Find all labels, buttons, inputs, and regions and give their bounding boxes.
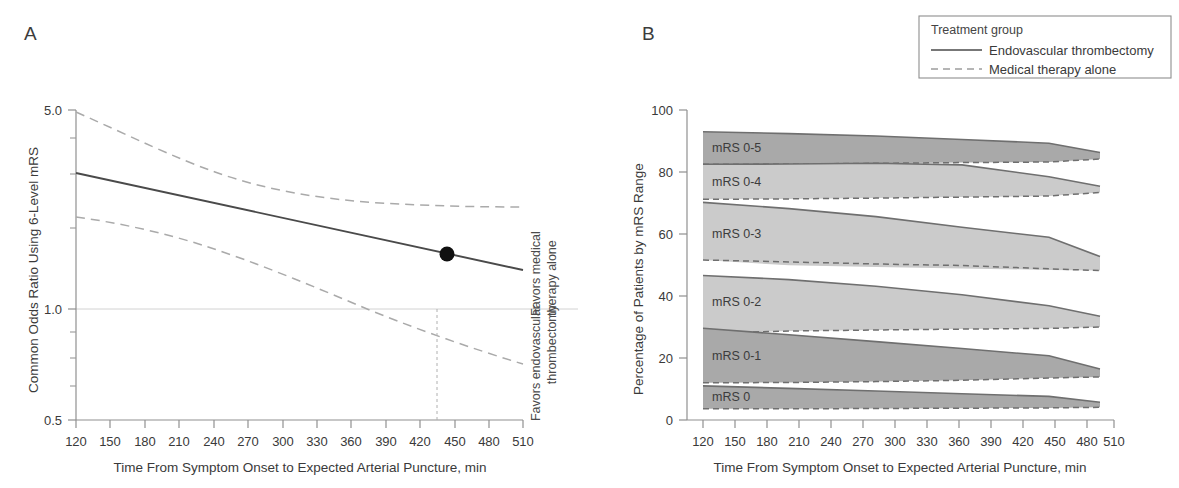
panel-a-xtick-label-9: 390 [375,434,397,449]
panel-a-xtick-label-0: 120 [65,434,87,449]
panel-b-ytick-label-4: 20 [659,351,673,366]
panel-b-xtick-label-7: 330 [916,434,938,449]
panel-a-xtick-label-13: 510 [512,434,534,449]
panel-a-xtick-label-11: 450 [444,434,466,449]
panel-b-x-ticks [703,420,1114,428]
panel-b-letter: B [642,23,655,44]
panel-b-ytick-label-0: 100 [651,103,673,118]
panel-b-xtick-label-4: 240 [820,434,842,449]
band-label-4: mRS 0-1 [712,349,761,363]
favors-medical-label-line1: Favors medical [529,231,543,316]
panel-b-xtick-label-9: 390 [980,434,1002,449]
panel-a-xtick-label-5: 270 [237,434,259,449]
band-label-5: mRS 0 [712,390,750,404]
panel-b-y-axis-title: Percentage of Patients by mRS Range [631,163,646,395]
band-mrs-0-5 [703,132,1100,165]
panel-b-xtick-label-10: 420 [1012,434,1034,449]
panel-b-xtick-label-1: 150 [724,434,746,449]
panel-a-xtick-label-12: 480 [478,434,500,449]
panel-a-xtick-label-4: 240 [203,434,225,449]
panel-a-letter: A [24,23,37,44]
band-mrs-0-3 [703,202,1100,270]
band-label-1: mRS 0-4 [712,175,761,189]
favors-thrombectomy-label-line1: Favors endovascular [529,305,543,421]
panel-b-svg: B Treatment group Endovascular thrombect… [590,0,1179,488]
point-estimate-marker [440,247,455,262]
panel-a-xtick-label-8: 360 [340,434,362,449]
panel-b-xtick-label-13: 510 [1103,434,1125,449]
panel-a-xtick-label-3: 210 [168,434,190,449]
panel-a-ytick-label-0: 5.0 [44,103,62,118]
panel-a-ytick-label-2: 0.5 [44,413,62,428]
panel-b-ytick-label-1: 80 [659,165,673,180]
panel-b-xtick-label-2: 180 [756,434,778,449]
legend-item-label-1: Medical therapy alone [989,62,1116,77]
favors-medical-label-line2: therapy alone [545,240,559,316]
panel-b-xtick-label-12: 480 [1076,434,1098,449]
panel-b: B Treatment group Endovascular thrombect… [590,0,1179,488]
panel-b-xtick-label-5: 270 [852,434,874,449]
band-label-3: mRS 0-2 [712,295,761,309]
panel-b-xtick-label-11: 450 [1044,434,1066,449]
legend-item-label-0: Endovascular thrombectomy [989,43,1154,58]
panel-a-xtick-label-2: 180 [134,434,156,449]
panel-a-y-axis-title: Common Odds Ratio Using 6-Level mRS [26,147,41,393]
panel-b-x-axis-title: Time From Symptom Onset to Expected Arte… [713,460,1086,475]
band-mrs-0-4 [703,163,1100,199]
figure-container: A Common Odds Ratio Using 6-Level mRS 5.… [0,0,1179,488]
panel-b-xtick-label-6: 300 [884,434,906,449]
panel-a-svg: A Common Odds Ratio Using 6-Level mRS 5.… [0,0,590,488]
panel-a-x-ticks [76,420,523,428]
panel-a-x-axis-title: Time From Symptom Onset to Expected Arte… [113,460,486,475]
band-label-2: mRS 0-3 [712,227,761,241]
lower-ci-curve [76,217,523,364]
panel-b-xtick-label-8: 360 [948,434,970,449]
band-label-0: mRS 0-5 [712,141,761,155]
upper-ci-curve [76,112,523,207]
panel-a-xtick-label-7: 330 [306,434,328,449]
panel-b-xtick-label-3: 210 [788,434,810,449]
band-mrs-0 [703,386,1100,409]
panel-a-ytick-label-1: 1.0 [44,302,62,317]
panel-b-ytick-label-2: 60 [659,227,673,242]
panel-b-y-ticks [679,110,687,420]
panel-b-ytick-label-3: 40 [659,289,673,304]
panel-a: A Common Odds Ratio Using 6-Level mRS 5.… [0,0,590,488]
panel-b-xtick-label-0: 120 [692,434,714,449]
panel-a-xtick-label-1: 150 [99,434,121,449]
odds-ratio-curve [76,173,523,270]
legend[interactable]: Treatment group Endovascular thrombectom… [919,16,1171,78]
legend-title: Treatment group [931,23,1023,37]
band-mrs-0-1 [703,328,1100,383]
panel-a-xtick-label-6: 300 [272,434,294,449]
panel-a-xtick-label-10: 420 [409,434,431,449]
band-mrs-0-2 [703,276,1100,334]
panel-b-ytick-label-5: 0 [666,413,673,428]
